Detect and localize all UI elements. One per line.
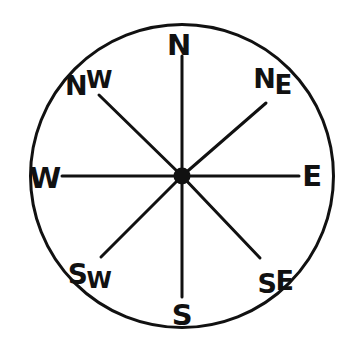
compass-center-hub [174,168,191,185]
spoke-southwest [101,176,182,257]
spoke-southeast [182,176,260,258]
compass-diagram [0,0,353,355]
compass-rose-figure: N NE E SE S SW W NW [0,0,353,355]
spoke-northeast [182,103,266,176]
spoke-northwest [99,95,182,176]
